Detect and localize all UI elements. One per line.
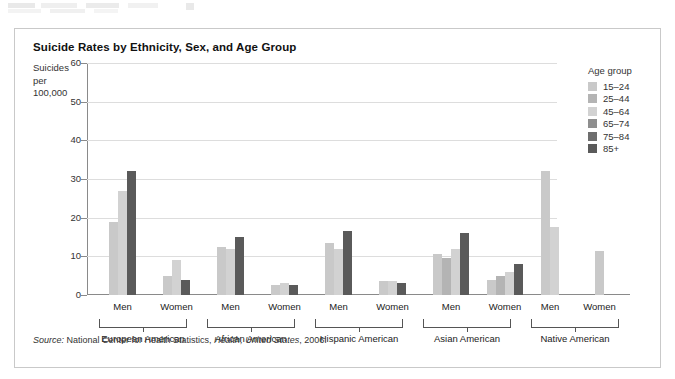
ethnicity-label: Native American [517, 333, 633, 344]
bar [325, 243, 334, 295]
cropped-text-artifact-tertiary [186, 3, 194, 10]
bar [235, 237, 244, 295]
y-axis-label-line-2: per [33, 75, 85, 88]
bar [388, 281, 397, 295]
ethnicity-bracket [99, 319, 187, 328]
bar [379, 281, 388, 295]
bar [289, 285, 298, 295]
bar [334, 249, 343, 295]
source-note: Source: National Center for Health Stati… [33, 335, 327, 345]
legend-swatch-2 [588, 94, 597, 103]
bracket-nub [467, 327, 468, 332]
bar [343, 231, 352, 295]
legend-swatch-4 [588, 119, 597, 128]
bar [442, 258, 451, 295]
bar [550, 227, 559, 295]
legend-label: 15–24 [603, 81, 629, 92]
ethnicity-bracket [207, 319, 295, 328]
source-middle: National Center for Health Statistics, [64, 335, 214, 345]
y-axis-tick [81, 63, 87, 64]
bar [487, 280, 496, 295]
source-publication: Health, United States [214, 335, 299, 345]
legend: Age group 15–2425–4445–6465–7475–8485+ [588, 65, 632, 155]
legend-item: 25–44 [588, 93, 632, 106]
gridline [87, 218, 557, 219]
bar [505, 272, 514, 295]
ethnicity-bracket [531, 319, 619, 328]
page-top-strip [0, 0, 675, 24]
bracket-nub [143, 327, 144, 332]
y-axis-tick [81, 295, 87, 296]
y-axis-tick-label: 40 [55, 134, 81, 145]
gridline [87, 179, 557, 180]
y-axis-tick-label: 30 [55, 173, 81, 184]
y-axis-tick-label: 0 [55, 289, 81, 300]
ethnicity-bracket [423, 319, 511, 328]
legend-swatch-3 [588, 107, 597, 116]
cropped-text-artifact [8, 3, 158, 8]
y-axis-tick-label: 50 [55, 96, 81, 107]
bar [271, 285, 280, 295]
bracket-nub [359, 327, 360, 332]
sex-label: Women [577, 301, 622, 312]
bar [172, 260, 181, 295]
bar [451, 249, 460, 295]
sex-label: Men [523, 301, 577, 312]
y-axis-tick [81, 218, 87, 219]
y-axis-tick-label: 20 [55, 212, 81, 223]
bar [397, 283, 406, 295]
gridline [87, 140, 557, 141]
cropped-text-artifact-secondary [8, 9, 118, 13]
figure-container: Suicide Rates by Ethnicity, Sex, and Age… [14, 28, 661, 368]
legend-item: 45–64 [588, 105, 632, 118]
bar [217, 247, 226, 295]
legend-item: 65–74 [588, 118, 632, 131]
legend-title: Age group [588, 65, 632, 76]
legend-swatch-1 [588, 82, 597, 91]
source-suffix: , 2006. [299, 335, 327, 345]
legend-item: 75–84 [588, 130, 632, 143]
bar [127, 171, 136, 295]
bar [226, 249, 235, 295]
legend-label: 25–44 [603, 93, 629, 104]
ethnicity-bracket [315, 319, 403, 328]
legend-swatch-5 [588, 132, 597, 141]
legend-label: 85+ [603, 143, 619, 154]
source-prefix: Source: [33, 335, 64, 345]
bar [181, 280, 190, 295]
gridline [87, 256, 557, 257]
bracket-nub [575, 327, 576, 332]
bar [163, 276, 172, 295]
legend-item: 15–24 [588, 80, 632, 93]
bar [280, 283, 289, 295]
gridline [87, 102, 557, 103]
legend-label: 75–84 [603, 131, 629, 142]
plot-area: 0102030405060MenWomenEuropean AmericanMe… [87, 63, 557, 295]
y-axis-tick [81, 256, 87, 257]
bar [118, 191, 127, 295]
y-axis-tick-label: 60 [55, 57, 81, 68]
y-axis-tick [81, 179, 87, 180]
figure-title: Suicide Rates by Ethnicity, Sex, and Age… [33, 41, 296, 53]
bar [541, 171, 550, 295]
y-axis-tick-label: 10 [55, 250, 81, 261]
bar [109, 222, 118, 295]
bar [433, 254, 442, 295]
legend-label: 45–64 [603, 106, 629, 117]
bar [514, 264, 523, 295]
bar [595, 251, 604, 295]
legend-label: 65–74 [603, 118, 629, 129]
y-axis-tick [81, 140, 87, 141]
bar [460, 233, 469, 295]
y-axis-tick [81, 102, 87, 103]
bracket-nub [251, 327, 252, 332]
ethnicity-label: Asian American [409, 333, 525, 344]
legend-items: 15–2425–4445–6465–7475–8485+ [588, 80, 632, 155]
legend-item: 85+ [588, 143, 632, 156]
legend-swatch-6 [588, 144, 597, 153]
gridline [87, 63, 557, 64]
bar [496, 276, 505, 295]
